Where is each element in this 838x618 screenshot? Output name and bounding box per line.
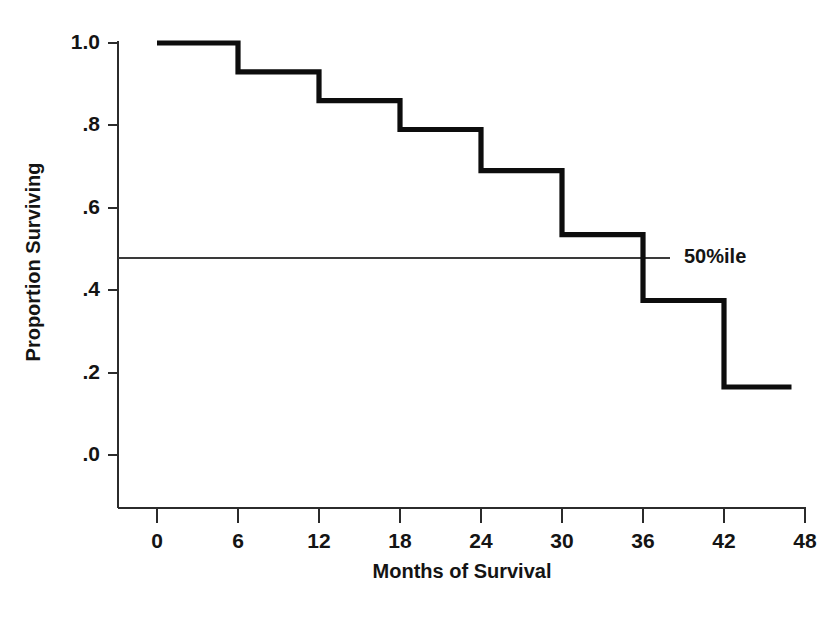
- x-tick-label-12: 12: [307, 529, 330, 552]
- survival-chart: 1.0 .8 .6 .4 .2 .0 0 6 12 18 24 30: [0, 0, 838, 618]
- y-axis-tick-labels: 1.0 .8 .6 .4 .2 .0: [71, 30, 101, 465]
- x-axis-title: Months of Survival: [373, 560, 552, 582]
- x-tick-label-24: 24: [469, 529, 493, 552]
- y-tick-label-0.2: .2: [82, 360, 100, 383]
- x-axis-tick-labels: 0 6 12 18 24 30 36 42 48: [151, 529, 817, 552]
- survival-step-curve: [157, 43, 792, 387]
- x-tick-label-18: 18: [388, 529, 412, 552]
- y-tick-label-0.6: .6: [82, 195, 100, 218]
- x-tick-label-0: 0: [151, 529, 163, 552]
- x-tick-label-42: 42: [712, 529, 735, 552]
- x-tick-label-6: 6: [232, 529, 244, 552]
- y-tick-label-0.4: .4: [82, 277, 100, 300]
- y-tick-label-0.8: .8: [82, 112, 100, 135]
- x-tick-label-30: 30: [550, 529, 573, 552]
- x-tick-label-48: 48: [793, 529, 817, 552]
- y-axis-title: Proportion Surviving: [22, 163, 44, 362]
- chart-canvas: 1.0 .8 .6 .4 .2 .0 0 6 12 18 24 30: [0, 0, 838, 618]
- y-tick-label-0.0: .0: [82, 442, 100, 465]
- x-axis-ticks: [157, 508, 805, 523]
- y-axis-ticks: [108, 43, 118, 455]
- y-tick-label-1.0: 1.0: [71, 30, 100, 53]
- x-tick-label-36: 36: [631, 529, 654, 552]
- median-reference-label: 50%ile: [684, 245, 746, 267]
